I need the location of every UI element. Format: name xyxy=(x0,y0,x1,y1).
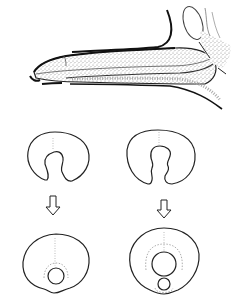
anatomical-diagram xyxy=(0,0,241,302)
down-arrow-icon xyxy=(157,200,171,218)
open-section xyxy=(28,132,89,181)
left-sequence xyxy=(23,132,89,293)
down-arrow-icon xyxy=(46,196,60,215)
longitudinal-section xyxy=(30,4,231,109)
right-sequence xyxy=(127,130,199,294)
open-section-notched xyxy=(127,130,195,184)
